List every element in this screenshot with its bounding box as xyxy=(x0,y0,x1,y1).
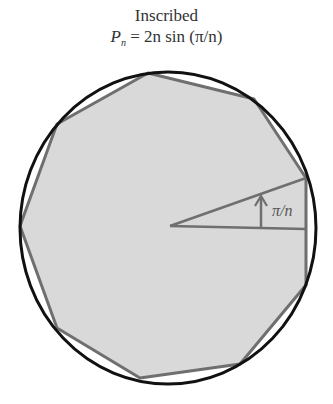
angle-label: π/n xyxy=(272,202,292,219)
inscribed-polygon-diagram: π/n xyxy=(0,0,333,404)
